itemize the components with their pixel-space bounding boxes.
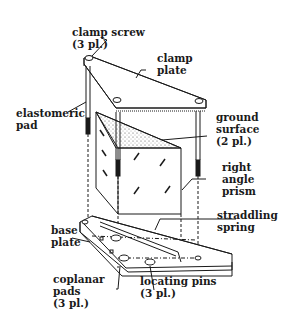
label-ground-surface: ground surface (2 pl.) xyxy=(216,111,259,147)
clamp-screw-head-3 xyxy=(195,99,203,104)
coplanar-pad xyxy=(82,220,88,224)
clamp-screw-head-1 xyxy=(85,56,93,61)
label-right-angle-prism: right angle prism xyxy=(222,161,256,197)
locating-pin xyxy=(111,235,121,241)
label-clamp-screw: clamp screw (3 pl.) xyxy=(72,26,145,50)
base-plate xyxy=(80,216,232,276)
prism-mount-diagram: clamp screw (3 pl.) clamp plate elastome… xyxy=(0,0,286,326)
label-clamp-plate: clamp plate xyxy=(157,52,193,76)
label-base-plate: base plate xyxy=(51,224,81,248)
label-coplanar-pads: coplanar pads (3 pl.) xyxy=(53,273,105,309)
locating-pin xyxy=(119,255,129,261)
clamp-screw-head-2 xyxy=(113,98,121,103)
locating-pin xyxy=(145,259,155,265)
label-straddling-spring: straddling spring xyxy=(217,209,278,233)
label-elastomeric-pad: elastomeric pad xyxy=(16,107,85,131)
label-locating-pins: locating pins (3 pl.) xyxy=(140,275,217,299)
